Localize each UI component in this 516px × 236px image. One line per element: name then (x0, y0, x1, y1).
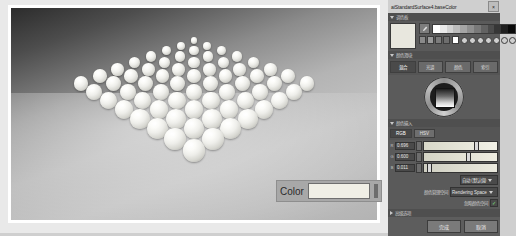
sphere (202, 128, 224, 150)
wheel-mode-tab[interactable]: 混合 (390, 61, 416, 73)
ignore-colorspace-checkbox[interactable]: ✓ (490, 199, 498, 207)
palette-section-header[interactable]: 调色板 (388, 13, 500, 21)
done-button[interactable]: 完成 (427, 220, 461, 233)
eyedropper-icon[interactable] (419, 23, 430, 34)
color-attribute-swatch[interactable] (308, 183, 370, 199)
sphere (168, 92, 185, 109)
sphere (217, 46, 226, 55)
sphere (170, 76, 185, 91)
color-space-dropdown[interactable]: 自动 (默认值) (460, 175, 498, 185)
channel-sliders: R0.696G0.600B0.011 (388, 140, 500, 174)
gray-swatch[interactable] (460, 25, 467, 33)
sphere (129, 57, 140, 68)
channel-slider-thumb[interactable] (466, 152, 471, 162)
sphere (300, 76, 315, 91)
value-mode-tab[interactable]: HSV (414, 129, 435, 138)
sphere (138, 76, 153, 91)
gray-swatch[interactable] (501, 25, 508, 33)
sphere (203, 76, 218, 91)
chevron-down-icon (390, 16, 394, 19)
sphere (203, 63, 216, 76)
chevron-down-icon (489, 191, 493, 194)
wheel-section-header[interactable]: 颜色滑块 (388, 51, 500, 59)
sphere (235, 76, 250, 91)
close-icon[interactable]: × (488, 1, 499, 12)
color-attribute-field[interactable]: Color (276, 180, 382, 202)
channel-label: B (390, 165, 394, 170)
sphere (220, 100, 238, 118)
gray-swatch[interactable] (488, 25, 495, 33)
circle-swatch[interactable] (477, 37, 484, 44)
sphere (237, 92, 254, 109)
white-swatch[interactable] (452, 36, 459, 44)
color-wheel-area[interactable] (388, 75, 500, 119)
sphere (162, 46, 171, 55)
channel-slider-track[interactable] (423, 141, 498, 151)
grayscale-ramp[interactable] (432, 24, 516, 34)
circle-swatch[interactable] (509, 37, 516, 44)
circle-swatch[interactable] (493, 37, 500, 44)
sphere (238, 109, 257, 128)
channel-value-input[interactable]: 0.696 (395, 142, 415, 150)
wheel-mode-tab[interactable]: 光谱 (418, 61, 444, 73)
gray-swatch[interactable] (433, 25, 440, 33)
advanced-section-header[interactable]: 高级选项 (388, 209, 500, 217)
window-titlebar[interactable]: aiStandardSurface4.baseColor × (388, 0, 500, 13)
rendering-space-dropdown[interactable]: Rendering Space (450, 187, 498, 197)
channel-value-input[interactable]: 0.011 (395, 164, 415, 172)
circle-swatch[interactable] (501, 37, 508, 44)
color-space-rows: 自动 (默认值) 颜色管理空间 Rendering Space 忽略颜色空间 ✓ (388, 174, 500, 209)
gray-swatch[interactable] (467, 25, 474, 33)
sphere (202, 109, 221, 128)
gray-swatch[interactable] (447, 25, 454, 33)
wheel-mode-tab[interactable]: 颜色 (445, 61, 471, 73)
channel-slider-track[interactable] (423, 152, 498, 162)
gray-swatch[interactable] (453, 25, 460, 33)
color-wheel-icon[interactable] (424, 77, 464, 117)
eyedropper-glyph (422, 26, 428, 32)
palette-swatch[interactable] (419, 36, 426, 44)
dialog-buttons: 完成取消 (388, 217, 500, 236)
gray-swatch[interactable] (440, 25, 447, 33)
values-section-header[interactable]: 颜色输入 (388, 119, 500, 127)
wheel-mode-tabs: 混合光谱颜色索引 (388, 59, 500, 75)
palette-swatch[interactable] (443, 36, 450, 44)
cancel-button[interactable]: 取消 (464, 220, 498, 233)
channel-slider-thumb[interactable] (474, 141, 479, 151)
channel-stepper[interactable] (416, 163, 422, 173)
sphere (185, 100, 203, 118)
palette-swatch[interactable] (435, 36, 442, 44)
sphere (218, 57, 229, 68)
channel-value-input[interactable]: 0.600 (395, 153, 415, 161)
sphere (233, 63, 246, 76)
gray-swatch[interactable] (508, 25, 515, 33)
channel-stepper[interactable] (416, 141, 422, 151)
circle-swatch[interactable] (485, 37, 492, 44)
channel-slider-row: R0.696 (390, 141, 498, 150)
channel-stepper[interactable] (416, 152, 422, 162)
circle-swatch[interactable] (461, 37, 468, 44)
gray-swatch[interactable] (474, 25, 481, 33)
current-color-preview[interactable] (390, 23, 416, 49)
channel-slider-thumb[interactable] (427, 163, 432, 173)
gray-swatch[interactable] (494, 25, 501, 33)
value-mode-tabs: RGBHSV (388, 127, 500, 140)
ignore-colorspace-row: 忽略颜色空间 ✓ (390, 199, 498, 207)
sphere (248, 57, 259, 68)
channel-slider-row: G0.600 (390, 152, 498, 161)
wheel-mode-tab[interactable]: 索引 (473, 61, 499, 73)
color-attribute-menu-handle[interactable] (374, 184, 378, 198)
circle-swatch[interactable] (469, 37, 476, 44)
value-mode-tab[interactable]: RGB (390, 129, 412, 138)
gray-swatch[interactable] (481, 25, 488, 33)
palette-swatch[interactable] (427, 36, 434, 44)
color-space-row: 自动 (默认值) (390, 175, 498, 185)
palette-swatches (419, 23, 516, 49)
sphere (172, 63, 185, 76)
values-section-title: 颜色输入 (396, 120, 412, 126)
palette-section-title: 调色板 (396, 14, 408, 20)
value-gradient-square[interactable] (435, 88, 455, 108)
render-viewport[interactable]: Color (0, 0, 388, 233)
channel-slider-track[interactable] (423, 163, 498, 173)
chevron-right-icon (390, 211, 393, 215)
